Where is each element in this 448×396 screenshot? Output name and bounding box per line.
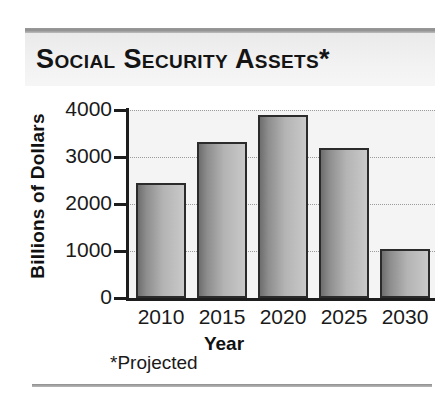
bar <box>380 249 430 298</box>
bar <box>136 183 186 298</box>
x-axis-tick-label: 2020 <box>248 305 318 329</box>
chart-plot-wrapper: Billions of Dollars 01000200030004000 20… <box>0 95 448 320</box>
y-axis-tick-label: 4000 <box>30 97 112 121</box>
y-axis-tick-label: 2000 <box>30 191 112 215</box>
x-axis-line <box>126 298 435 301</box>
bottom-rule <box>32 384 432 387</box>
footnote-projected: *Projected <box>110 352 198 374</box>
y-axis-tick <box>114 109 128 112</box>
y-axis-tick <box>114 297 128 300</box>
y-axis-tick-label: 1000 <box>30 238 112 262</box>
gridline <box>128 110 435 111</box>
y-axis-tick <box>114 250 128 253</box>
bar <box>258 115 308 298</box>
y-axis-tick <box>114 203 128 206</box>
bar <box>319 148 369 298</box>
y-axis-tick <box>114 156 128 159</box>
chart-page: Social Security Assets* Billions of Doll… <box>0 0 448 396</box>
x-axis-tick-label: 2030 <box>370 305 440 329</box>
chart-title: Social Security Assets* <box>36 44 330 75</box>
x-axis-tick-label: 2015 <box>187 305 257 329</box>
x-axis-title: Year <box>0 333 448 355</box>
title-top-rule <box>25 28 435 33</box>
bar <box>197 142 247 298</box>
x-axis-tick-label: 2010 <box>126 305 196 329</box>
x-axis-tick-label: 2025 <box>309 305 379 329</box>
y-axis-tick-label: 0 <box>30 285 112 309</box>
y-axis-tick-label: 3000 <box>30 144 112 168</box>
plot-area <box>128 110 435 298</box>
